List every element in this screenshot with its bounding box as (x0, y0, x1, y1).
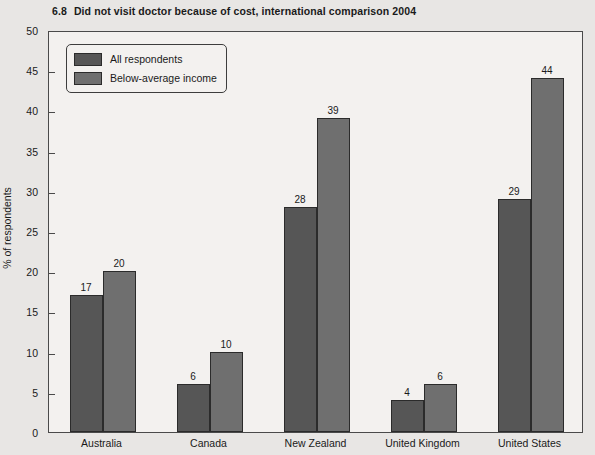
y-tick-mark (49, 112, 55, 113)
legend-swatch-icon (74, 72, 102, 85)
y-tick-label: 15 (26, 306, 38, 318)
figure-title: 6.8Did not visit doctor because of cost,… (52, 5, 416, 17)
y-tick-mark (49, 394, 55, 395)
figure-title-text: Did not visit doctor because of cost, in… (74, 5, 416, 17)
bar-value-label: 6 (437, 371, 443, 382)
bar-group-new-zealand: 2839 (284, 32, 350, 432)
x-axis-label-australia: Australia (81, 437, 122, 449)
bar[interactable]: 6 (177, 384, 210, 432)
y-tick-label: 10 (26, 347, 38, 359)
bar[interactable]: 20 (103, 271, 136, 432)
bar-value-label: 17 (80, 282, 91, 293)
legend-label: Below-average income (110, 72, 217, 84)
legend-item-below-average-income[interactable]: Below-average income (74, 70, 217, 86)
y-tick-label: 45 (26, 65, 38, 77)
bar-value-label: 39 (327, 105, 338, 116)
bar-value-label: 20 (113, 258, 124, 269)
bar[interactable]: 28 (284, 207, 317, 432)
y-tick-label: 40 (26, 105, 38, 117)
bar[interactable]: 29 (498, 199, 531, 432)
y-tick-mark (49, 313, 55, 314)
y-tick-mark (49, 153, 55, 154)
bar-value-label: 10 (220, 339, 231, 350)
x-axis-label-new-zealand: New Zealand (285, 437, 347, 449)
y-tick-label: 20 (26, 266, 38, 278)
bar[interactable]: 44 (531, 78, 564, 432)
x-axis-label-united-states: United States (498, 437, 561, 449)
bar[interactable]: 6 (424, 384, 457, 432)
chart-legend: All respondentsBelow-average income (66, 44, 227, 93)
bar-value-label: 28 (294, 194, 305, 205)
y-tick-mark (49, 354, 55, 355)
legend-label: All respondents (110, 53, 182, 65)
x-axis-label-canada: Canada (190, 437, 227, 449)
bar-value-label: 44 (541, 65, 552, 76)
x-axis-label-united-kingdom: United Kingdom (385, 437, 460, 449)
bar-value-label: 4 (404, 387, 410, 398)
bar-value-label: 29 (508, 186, 519, 197)
y-tick-label: 5 (32, 387, 38, 399)
bar[interactable]: 10 (210, 352, 243, 432)
bar[interactable]: 17 (70, 295, 103, 432)
y-tick-mark (49, 193, 55, 194)
bar-group-united-states: 2944 (498, 32, 564, 432)
y-tick-label: 50 (26, 25, 38, 37)
bar[interactable]: 39 (317, 118, 350, 432)
bar-group-united-kingdom: 46 (391, 32, 457, 432)
y-axis-title: % of respondents (1, 187, 13, 269)
y-tick-label: 30 (26, 186, 38, 198)
y-tick-label: 0 (32, 427, 38, 439)
legend-swatch-icon (74, 53, 102, 66)
figure-number: 6.8 (52, 5, 67, 17)
bar[interactable]: 4 (391, 400, 424, 432)
y-tick-mark (49, 233, 55, 234)
y-tick-mark (49, 273, 55, 274)
legend-item-all-respondents[interactable]: All respondents (74, 51, 217, 67)
y-tick-mark (49, 72, 55, 73)
y-tick-label: 35 (26, 146, 38, 158)
y-tick-label: 25 (26, 226, 38, 238)
bar-value-label: 6 (190, 371, 196, 382)
